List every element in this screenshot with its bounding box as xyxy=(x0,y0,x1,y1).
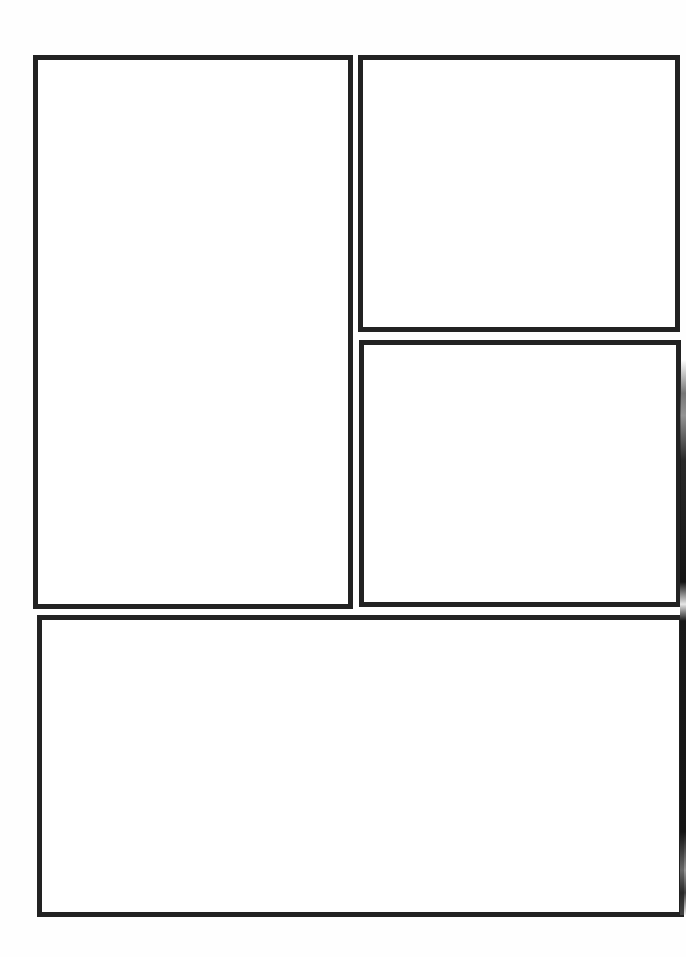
panel-label xyxy=(42,620,43,621)
panel-label xyxy=(38,60,39,61)
panel-label xyxy=(364,345,365,346)
panel-middle-right xyxy=(359,340,681,607)
page-edge-bleed xyxy=(680,360,686,915)
panel-left-tall xyxy=(33,55,353,609)
panel-top-right xyxy=(358,55,680,332)
comic-page xyxy=(0,0,686,957)
panel-label xyxy=(363,60,364,61)
panel-bottom-wide xyxy=(37,615,684,917)
